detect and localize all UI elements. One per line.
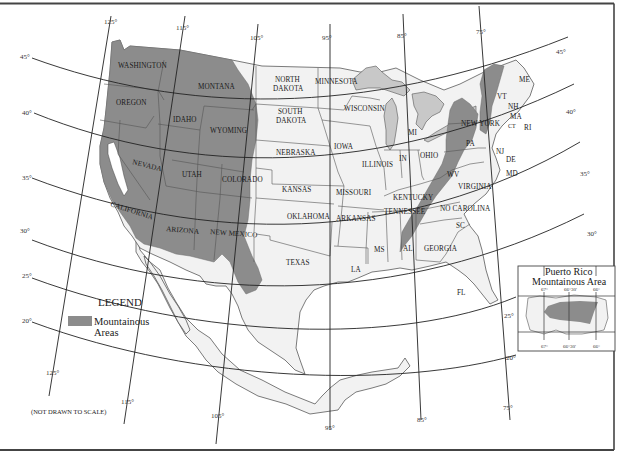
label-virginia: VIRGINIA [458, 183, 492, 191]
svg-text:66°30': 66°30' [564, 287, 577, 292]
label-indiana: IN [399, 155, 407, 163]
label-vermont: VT [497, 93, 507, 101]
svg-text:105°: 105° [211, 412, 225, 420]
label-florida: FL [457, 289, 466, 297]
map-figure: 125° 115° 105° 95° 85° 75° 125° 115° 105… [0, 0, 617, 454]
svg-text:45°: 45° [20, 53, 30, 61]
svg-text:40°: 40° [566, 108, 576, 116]
svg-text:85°: 85° [397, 32, 407, 40]
svg-text:115°: 115° [176, 24, 189, 32]
label-maine: ME [519, 76, 530, 84]
label-mississippi: MS [374, 246, 385, 254]
label-nebraska: NEBRASKA [276, 149, 316, 157]
label-minnesota: MINNESOTA [315, 78, 358, 86]
label-wisconsin: WISCONSIN [344, 105, 386, 113]
label-idaho: IDAHO [173, 116, 197, 124]
svg-text:25°: 25° [504, 312, 514, 320]
label-new-jersey: NJ [496, 148, 504, 156]
label-maryland: MD [506, 170, 518, 178]
legend-title: LEGEND [98, 296, 142, 308]
legend-swatch-mountainous [68, 316, 92, 326]
legend: LEGEND Mountainous Areas [68, 296, 149, 338]
label-alabama: AL [403, 245, 413, 253]
svg-text:66°: 66° [593, 287, 600, 292]
svg-text:DAKOTA: DAKOTA [276, 117, 307, 125]
inset-title-line2: Mountainous Area [532, 276, 607, 287]
svg-text:95°: 95° [325, 424, 335, 432]
label-north-dakota: NORTH [275, 76, 300, 84]
svg-text:30°: 30° [20, 227, 30, 235]
svg-text:DAKOTA: DAKOTA [273, 85, 304, 93]
label-iowa: IOWA [334, 143, 354, 151]
label-arkansas: ARKANSAS [336, 215, 376, 223]
svg-text:75°: 75° [476, 28, 486, 36]
label-washington: WASHINGTON [118, 62, 167, 70]
label-kansas: KANSAS [282, 186, 311, 194]
svg-text:115°: 115° [121, 398, 134, 406]
svg-text:45°: 45° [556, 48, 566, 56]
svg-text:105°: 105° [250, 34, 264, 42]
label-west-virginia: WV [447, 171, 460, 179]
label-oklahoma: OKLAHOMA [287, 213, 330, 221]
label-connecticut: CT [508, 123, 516, 129]
label-tennessee: TENNESSEE [384, 208, 426, 216]
label-oregon: OREGON [116, 99, 147, 107]
svg-text:67°: 67° [541, 344, 548, 349]
svg-text:95°: 95° [322, 34, 332, 42]
svg-text:35°: 35° [580, 170, 590, 178]
svg-text:66°: 66° [593, 344, 600, 349]
svg-text:20°: 20° [506, 354, 516, 362]
svg-text:30°: 30° [587, 230, 597, 238]
svg-text:125°: 125° [104, 18, 118, 26]
label-massachusetts: MA [510, 113, 522, 121]
label-montana: MONTANA [198, 83, 236, 91]
label-missouri: MISSOURI [336, 189, 372, 197]
label-texas: TEXAS [286, 259, 310, 267]
label-north-carolina: NO CAROLINA [440, 205, 491, 213]
label-michigan: MI [408, 129, 417, 137]
svg-text:35°: 35° [22, 174, 32, 182]
label-louisiana: LA [351, 266, 361, 274]
svg-text:75°: 75° [503, 404, 513, 412]
label-pennsylvania: PA [466, 140, 475, 148]
label-south-carolina: SC [456, 222, 465, 230]
label-new-hampshire: NH [508, 103, 519, 111]
label-utah: UTAH [182, 171, 202, 179]
legend-label-line2: Areas [94, 327, 119, 338]
label-colorado: COLORADO [222, 176, 263, 184]
label-delaware: DE [506, 156, 516, 164]
svg-text:25°: 25° [22, 272, 32, 280]
label-new-york: NEW YORK [461, 120, 501, 128]
label-south-dakota: SOUTH [278, 108, 302, 116]
svg-text:20°: 20° [22, 317, 32, 325]
longitude-labels-top: 125° 115° 105° 95° 85° 75° [104, 18, 486, 42]
svg-text:66°30': 66°30' [563, 344, 576, 349]
puerto-rico-inset: Puerto Rico Mountainous Area 67° 66°30' … [518, 266, 615, 351]
svg-text:125°: 125° [46, 369, 60, 377]
label-kentucky: KENTUCKY [393, 194, 434, 202]
label-ohio: OHIO [420, 152, 438, 160]
label-wyoming: WYOMING [210, 127, 247, 135]
label-illinois: ILLINOIS [362, 161, 393, 169]
svg-text:40°: 40° [22, 109, 32, 117]
label-rhode-island: RI [524, 124, 532, 132]
label-georgia: GEORGIA [424, 245, 458, 253]
latitude-labels-left: 45° 40° 35° 30° 25° 20° [20, 53, 32, 325]
svg-text:67°: 67° [541, 287, 548, 292]
scale-note: (NOT DRAWN TO SCALE) [31, 408, 107, 416]
legend-label-line1: Mountainous [94, 316, 149, 327]
svg-text:85°: 85° [417, 416, 427, 424]
